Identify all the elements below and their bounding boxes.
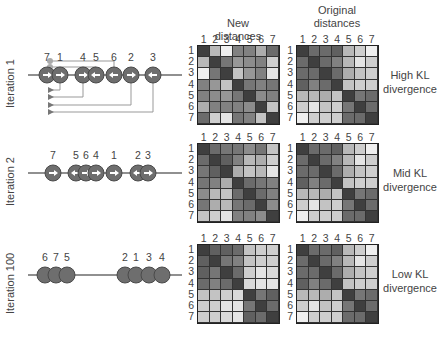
matrix-cell — [320, 144, 332, 155]
matrix-cell — [198, 155, 210, 166]
matrix-cell — [210, 211, 222, 222]
matrix-cell — [343, 189, 355, 200]
matrix-cell — [233, 80, 245, 91]
matrix-cell — [210, 57, 222, 68]
matrix-cell — [198, 166, 210, 177]
matrix-cell — [332, 189, 344, 200]
matrix-cell — [343, 68, 355, 79]
new-distance-matrix — [197, 244, 280, 324]
matrix-cell — [297, 200, 309, 211]
matrix-cell — [198, 102, 210, 113]
matrix-cell — [332, 57, 344, 68]
matrix-cell — [221, 80, 233, 91]
matrix-cell — [267, 57, 279, 68]
matrix-cell — [332, 166, 344, 177]
new-distances-header-line1: New — [193, 17, 283, 30]
matrix-cell — [221, 211, 233, 222]
matrix-cell — [366, 102, 378, 113]
matrix-cell — [210, 166, 222, 177]
column-index: 5 — [244, 131, 256, 143]
matrix-cell — [366, 155, 378, 166]
row-index: 7 — [184, 311, 194, 322]
matrix-cell — [297, 267, 309, 278]
matrix-cell — [267, 91, 279, 102]
matrix-cell — [332, 102, 344, 113]
matrix-cell — [233, 211, 245, 222]
matrix-cell — [198, 68, 210, 79]
column-index: 1 — [198, 131, 210, 143]
point-label: 7 — [44, 51, 50, 63]
matrix-cell — [320, 68, 332, 79]
matrix-cell — [309, 102, 321, 113]
embedding-line-plot: 7145623 — [0, 30, 190, 120]
matrix-cell — [355, 211, 367, 222]
matrix-cell — [210, 155, 222, 166]
matrix-cell — [320, 245, 332, 256]
matrix-cell — [332, 144, 344, 155]
original-distance-matrix-column-indices: 1234567 — [297, 232, 378, 244]
matrix-cell — [320, 178, 332, 189]
matrix-cell — [332, 178, 344, 189]
arrow-head-icon — [48, 87, 54, 93]
matrix-cell — [355, 166, 367, 177]
matrix-cell — [297, 155, 309, 166]
point-label: 4 — [159, 251, 165, 263]
original-distance-matrix — [296, 45, 379, 125]
matrix-cell — [267, 178, 279, 189]
matrix-cell — [198, 113, 210, 124]
matrix-cell — [297, 211, 309, 222]
column-index: 2 — [309, 33, 321, 45]
matrix-cell — [198, 200, 210, 211]
matrix-cell — [198, 57, 210, 68]
matrix-cell — [210, 312, 222, 323]
arrow-head-icon — [48, 102, 54, 108]
matrix-cell — [267, 80, 279, 91]
matrix-cell — [320, 113, 332, 124]
point-label: 6 — [83, 149, 89, 161]
matrix-cell — [244, 312, 256, 323]
matrix-cell — [332, 301, 344, 312]
matrix-cell — [221, 301, 233, 312]
matrix-cell — [297, 57, 309, 68]
matrix-cell — [297, 68, 309, 79]
matrix-cell — [267, 46, 279, 57]
data-point-7: 7 — [45, 149, 61, 181]
matrix-cell — [267, 301, 279, 312]
matrix-cell — [297, 46, 309, 57]
matrix-cell — [355, 256, 367, 267]
matrix-cell — [256, 178, 268, 189]
matrix-cell — [343, 144, 355, 155]
matrix-cell — [297, 91, 309, 102]
matrix-cell — [309, 279, 321, 290]
matrix-cell — [244, 102, 256, 113]
matrix-cell — [244, 178, 256, 189]
matrix-cell — [320, 267, 332, 278]
matrix-cell — [221, 102, 233, 113]
matrix-cell — [233, 267, 245, 278]
matrix-cell — [256, 245, 268, 256]
data-point-3: 3 — [140, 149, 156, 181]
matrix-cell — [267, 144, 279, 155]
new-distance-matrix-row-indices: 1234567 — [184, 143, 194, 221]
matrix-cell — [309, 189, 321, 200]
matrix-cell — [198, 290, 210, 301]
matrix-cell — [355, 279, 367, 290]
matrix-cell — [233, 189, 245, 200]
matrix-cell — [355, 189, 367, 200]
data-point-4: 4 — [88, 149, 104, 181]
matrix-cell — [233, 178, 245, 189]
column-index: 5 — [343, 131, 355, 143]
matrix-cell — [210, 189, 222, 200]
matrix-cell — [320, 155, 332, 166]
matrix-cell — [320, 189, 332, 200]
matrix-cell — [332, 312, 344, 323]
point-label: 4 — [93, 149, 99, 161]
matrix-cell — [297, 312, 309, 323]
column-index: 2 — [210, 232, 222, 244]
matrix-cell — [256, 166, 268, 177]
matrix-cell — [320, 91, 332, 102]
original-distance-matrix-column-indices: 1234567 — [297, 33, 378, 45]
matrix-cell — [233, 279, 245, 290]
matrix-cell — [297, 144, 309, 155]
matrix-cell — [256, 144, 268, 155]
